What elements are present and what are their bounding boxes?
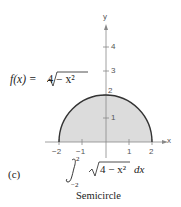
x-tick-label: 1	[127, 147, 131, 156]
y-tick-label: 1	[111, 113, 115, 122]
semicircle-graph	[0, 0, 181, 207]
x-tick-label: −2	[52, 147, 61, 156]
integral-sign-icon	[66, 159, 75, 182]
function-label: f(x) = 4 − x²	[10, 73, 75, 85]
y-axis-label: y	[103, 12, 107, 21]
figure-caption: Semicircle	[76, 190, 121, 201]
shaded-area	[59, 95, 152, 142]
integral-upper-limit: 2	[76, 155, 80, 163]
function-lhs: f(x) =	[10, 73, 39, 85]
part-label: (c)	[8, 168, 20, 180]
y-tick-label: 2	[108, 86, 112, 95]
x-axis-label: x	[167, 136, 171, 145]
y-axis-arrow-icon	[104, 24, 108, 30]
integrand: 4 − x²	[100, 163, 126, 175]
integral-lower-limit: −2	[71, 181, 78, 189]
function-radicand: 4 − x²	[47, 73, 74, 85]
y-tick-label: 3	[111, 66, 115, 75]
y-tick-label: 4	[111, 42, 115, 51]
x-tick-label: 2	[149, 147, 153, 156]
differential: dx	[134, 163, 144, 175]
